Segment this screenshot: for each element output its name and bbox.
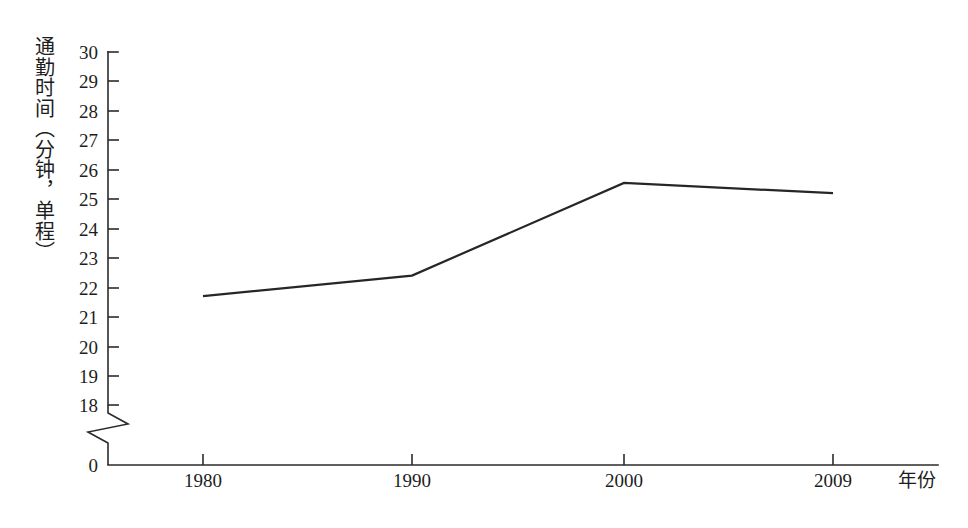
y-tick-label-29: 29 — [79, 71, 98, 92]
y-tick-label-19: 19 — [79, 366, 98, 387]
y-tick-label-23: 23 — [79, 248, 98, 269]
y-axis-title: 通勤时间（分钟，单程） — [32, 36, 53, 262]
x-tick-label-1980: 1980 — [184, 470, 222, 491]
x-tick-label-2009: 2009 — [814, 470, 852, 491]
y-axis-title-wrapper: 通勤时间（分钟，单程） — [26, 36, 60, 266]
chart-canvas: 30 29 28 27 26 25 24 23 22 21 20 19 18 0… — [0, 0, 968, 528]
x-axis-title: 年份 — [898, 470, 936, 491]
x-tick-label-2000: 2000 — [605, 470, 643, 491]
y-tick-label-25: 25 — [79, 189, 98, 210]
data-series-commute-time — [203, 183, 833, 296]
y-tick-label-18: 18 — [79, 395, 98, 416]
y-tick-labels: 30 29 28 27 26 25 24 23 22 21 20 19 18 0 — [79, 42, 99, 476]
line-chart: 通勤时间（分钟，单程） 30 29 28 — [0, 0, 968, 528]
x-tick-marks — [203, 454, 833, 465]
y-tick-label-22: 22 — [79, 278, 98, 299]
y-tick-label-27: 27 — [79, 130, 98, 151]
x-tick-labels: 1980 1990 2000 2009 — [184, 470, 852, 491]
y-tick-label-21: 21 — [79, 307, 98, 328]
y-tick-label-28: 28 — [79, 101, 98, 122]
x-tick-label-1990: 1990 — [393, 470, 431, 491]
y-tick-marks — [108, 81, 119, 405]
y-tick-label-30: 30 — [79, 42, 98, 63]
y-tick-label-zero: 0 — [89, 455, 99, 476]
y-tick-label-24: 24 — [79, 219, 99, 240]
y-tick-label-26: 26 — [79, 160, 98, 181]
y-tick-label-20: 20 — [79, 337, 98, 358]
